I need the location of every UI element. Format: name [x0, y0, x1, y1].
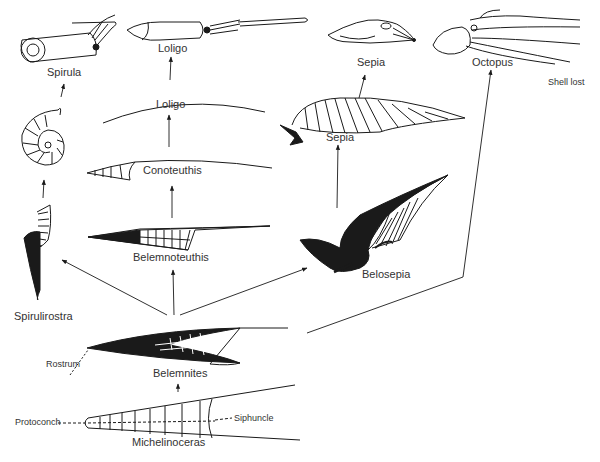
spirula-shell-drawing: [22, 108, 64, 165]
label-loligo-shell: Loligo: [156, 98, 185, 110]
sepia-animal-drawing: [328, 20, 416, 43]
spirulirostra-drawing: [24, 205, 51, 300]
label-michelinoceras: Michelinoceras: [132, 436, 205, 448]
label-sepia-shell: Sepia: [326, 131, 354, 143]
diagram-artwork: [0, 0, 600, 462]
label-loligo-animal: Loligo: [158, 42, 187, 54]
annotation-protoconch: Protoconch: [15, 417, 61, 427]
annotation-rostrum: Rostrum: [46, 359, 80, 369]
spirula-animal-drawing: [21, 15, 116, 62]
label-octopus: Octopus: [472, 56, 513, 68]
label-spirula: Spirula: [47, 66, 81, 78]
sepia-shell-drawing: [280, 98, 465, 145]
label-belemnites: Belemnites: [153, 367, 207, 379]
belemnoteuthis-drawing: [88, 226, 270, 250]
label-shell-lost: Shell lost: [548, 77, 585, 87]
label-belosepia: Belosepia: [362, 268, 410, 280]
label-spirulirostra: Spirulirostra: [14, 310, 73, 322]
label-belemnoteuthis: Belemnoteuthis: [133, 251, 209, 263]
belosepia-drawing: [300, 175, 448, 272]
loligo-animal-drawing: [127, 18, 308, 40]
annotation-siphuncle: Siphuncle: [234, 413, 274, 423]
label-sepia-animal: Sepia: [357, 56, 385, 68]
label-conoteuthis: Conoteuthis: [143, 164, 202, 176]
